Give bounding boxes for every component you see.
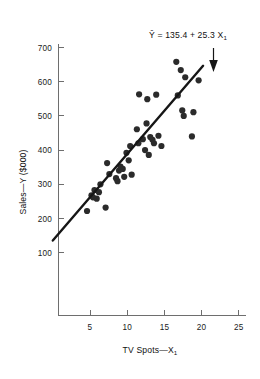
- plot-canvas: 700 600 500 400 300 200 100 5 10 15 20 2…: [0, 0, 260, 379]
- x-tick-label: 15: [160, 323, 170, 332]
- y-axis-title: Sales—Y ($000): [18, 150, 28, 215]
- regression-equation-label: Ŷ = 135.4 + 25.3 X1: [149, 30, 227, 41]
- scatter-plot-figure: 700 600 500 400 300 200 100 5 10 15 20 2…: [0, 0, 260, 379]
- data-point: [178, 67, 184, 73]
- data-point: [114, 178, 120, 184]
- y-tick-label: 700: [38, 44, 53, 53]
- data-point: [144, 96, 150, 102]
- data-point: [190, 109, 196, 115]
- data-point: [94, 196, 100, 202]
- data-point: [121, 174, 127, 180]
- data-point: [155, 133, 161, 139]
- y-tick-label: 200: [38, 215, 53, 224]
- data-point: [182, 74, 188, 80]
- data-point: [103, 204, 109, 210]
- data-point: [126, 157, 132, 163]
- data-point: [151, 140, 157, 146]
- data-point: [181, 113, 187, 119]
- equation-subscript: 1: [223, 34, 227, 41]
- data-point: [158, 143, 164, 149]
- regression-line: [53, 66, 203, 241]
- y-axis-ticks: [59, 48, 65, 253]
- axis-lines: [59, 44, 247, 316]
- y-tick-label: 300: [38, 180, 53, 189]
- data-point: [134, 126, 140, 132]
- y-axis-tick-labels: 700 600 500 400 300 200 100: [38, 44, 53, 258]
- y-tick-label: 100: [38, 249, 53, 258]
- data-point: [189, 133, 195, 139]
- equation-main: Ŷ = 135.4 + 25.3 X: [149, 30, 223, 40]
- data-point: [84, 208, 90, 214]
- data-point: [143, 120, 149, 126]
- data-point: [129, 172, 135, 178]
- y-tick-label: 400: [38, 146, 53, 155]
- y-tick-label: 600: [38, 78, 53, 87]
- data-point: [153, 92, 159, 98]
- x-tick-label: 25: [234, 323, 244, 332]
- data-point: [120, 166, 126, 172]
- x-axis-ticks: [90, 310, 239, 316]
- y-tick-label: 500: [38, 112, 53, 121]
- data-point: [104, 160, 110, 166]
- data-point: [146, 152, 152, 158]
- x-axis-tick-labels: 5 10 15 20 25: [88, 323, 244, 332]
- x-tick-label: 10: [122, 323, 132, 332]
- x-tick-label: 5: [88, 323, 93, 332]
- data-point: [196, 77, 202, 83]
- x-axis-title: TV Spots—X1: [123, 345, 178, 356]
- data-point: [179, 107, 185, 113]
- annotation-arrow: [209, 48, 218, 72]
- data-point: [136, 91, 142, 97]
- x-axis-title-subscript: 1: [174, 349, 178, 356]
- x-tick-label: 20: [197, 323, 207, 332]
- x-axis-title-main: TV Spots—X: [123, 345, 174, 355]
- data-point: [173, 59, 179, 65]
